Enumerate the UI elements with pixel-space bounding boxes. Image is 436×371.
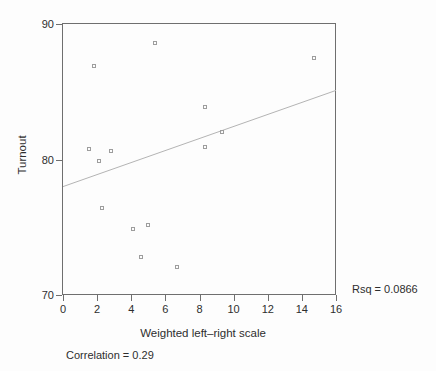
x-tick-label: 16 xyxy=(330,303,342,316)
data-point xyxy=(153,41,157,45)
data-point xyxy=(97,159,101,163)
plot-area xyxy=(62,23,336,295)
y-tick-label: 80 xyxy=(28,153,54,166)
x-axis-tick xyxy=(200,295,201,301)
x-tick-label: 8 xyxy=(196,303,202,316)
data-point xyxy=(109,149,113,153)
scatter-chart: Turnout 0246810121416908070 Weighted lef… xyxy=(0,0,436,371)
x-tick-label: 6 xyxy=(162,303,168,316)
data-point xyxy=(175,265,179,269)
x-axis-label: Weighted left–right scale xyxy=(140,327,266,339)
x-tick-label: 2 xyxy=(94,303,100,316)
y-axis-tick xyxy=(56,160,62,161)
x-tick-label: 10 xyxy=(228,303,240,316)
x-axis-tick xyxy=(131,295,132,301)
x-axis-tick xyxy=(234,295,235,301)
x-axis-tick xyxy=(63,295,64,301)
y-tick-label: 70 xyxy=(28,289,54,302)
data-point xyxy=(203,105,207,109)
x-tick-label: 4 xyxy=(128,303,134,316)
correlation-annotation: Correlation = 0.29 xyxy=(66,349,154,361)
rsq-annotation: Rsq = 0.0866 xyxy=(352,283,418,295)
data-point xyxy=(100,206,104,210)
y-axis-label: Turnout xyxy=(16,135,28,174)
data-point xyxy=(139,255,143,259)
data-point xyxy=(131,227,135,231)
data-point xyxy=(87,147,91,151)
y-axis-tick xyxy=(56,295,62,296)
plot-inner xyxy=(63,24,336,295)
data-point xyxy=(203,145,207,149)
x-axis-tick xyxy=(336,295,337,301)
data-point xyxy=(146,223,150,227)
y-tick-label: 90 xyxy=(28,18,54,31)
regression-line xyxy=(63,24,336,295)
x-axis-tick xyxy=(97,295,98,301)
data-point xyxy=(92,64,96,68)
data-point xyxy=(312,56,316,60)
x-axis-tick xyxy=(268,295,269,301)
x-axis-tick xyxy=(165,295,166,301)
x-tick-label: 14 xyxy=(296,303,308,316)
x-tick-label: 12 xyxy=(262,303,274,316)
x-tick-label: 0 xyxy=(60,303,66,316)
x-axis-tick xyxy=(302,295,303,301)
y-axis-tick xyxy=(56,24,62,25)
data-point xyxy=(220,130,224,134)
